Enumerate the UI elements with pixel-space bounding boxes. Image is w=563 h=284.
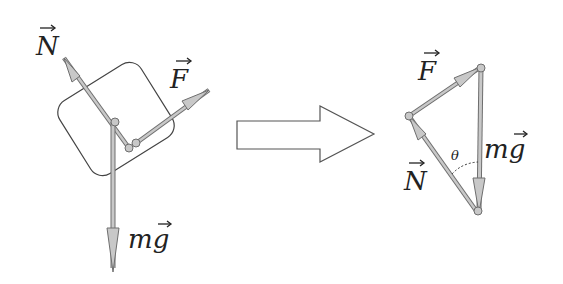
label-F-left: F	[169, 64, 189, 94]
angle-arc	[452, 162, 478, 174]
transition-arrow	[237, 106, 374, 162]
label-F-right: F	[417, 56, 437, 86]
label-mg-right: mg	[484, 134, 525, 164]
label-N-left: N	[35, 31, 60, 61]
label-N-right: N	[403, 166, 428, 196]
force-diagram: N F mg F mg N θ	[0, 0, 563, 284]
right-panel: F mg N θ	[403, 50, 527, 215]
left-panel: N F mg	[35, 25, 209, 272]
label-theta: θ	[451, 148, 459, 163]
label-mg-left: mg	[128, 224, 169, 254]
